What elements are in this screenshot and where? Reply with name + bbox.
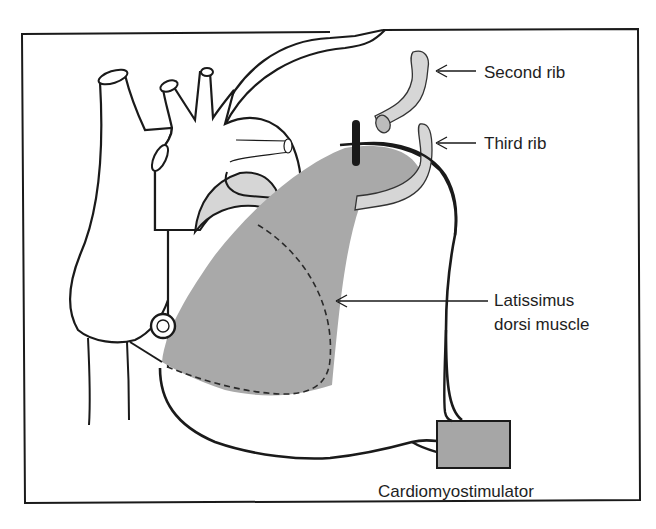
label-second-rib: Second rib <box>484 63 565 82</box>
muscle-arrow <box>336 295 488 307</box>
cardiomyoplasty-diagram: Second rib Third rib Latissimus dorsi mu… <box>0 0 656 529</box>
sensing-electrode-inner <box>157 320 169 332</box>
vessel-connector <box>130 342 162 362</box>
second-rib-arrow <box>436 65 476 77</box>
cardiomyostimulator-box <box>437 421 510 468</box>
electrode-lead <box>352 120 360 166</box>
label-cardiomyostimulator: Cardiomyostimulator <box>378 482 534 501</box>
pulmonary-artery-opening <box>284 139 292 153</box>
lead-wire-lower <box>225 30 385 125</box>
label-dorsi-muscle: dorsi muscle <box>494 315 589 334</box>
label-third-rib: Third rib <box>484 134 546 153</box>
diagram-canvas: Second rib Third rib Latissimus dorsi mu… <box>0 0 656 529</box>
stimulator-lead-side <box>412 442 437 452</box>
third-rib-arrow <box>436 137 476 149</box>
lead-wire-upper <box>220 30 383 118</box>
inferior-vena-cava-right <box>127 342 129 420</box>
carotid-opening <box>201 68 213 76</box>
inferior-vena-cava-left <box>88 338 90 425</box>
label-latissimus: Latissimus <box>494 291 574 310</box>
